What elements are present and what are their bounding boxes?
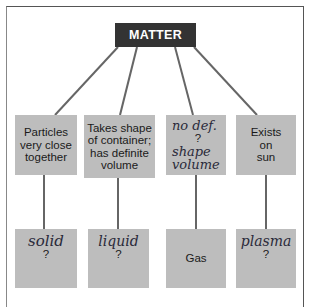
question-mark: ? [115, 248, 121, 261]
handwritten-answer: solid [28, 235, 64, 248]
handwritten-answer: plasma [241, 235, 292, 248]
handwritten-answer: volume [172, 158, 220, 171]
property-box-solid: Particles very close together [15, 115, 77, 175]
state-box-solid: solid ? [15, 229, 77, 288]
property-text: sun [257, 151, 276, 164]
property-text: together [25, 151, 67, 164]
root-label: MATTER [129, 28, 182, 42]
handwritten-answer: shape [172, 145, 211, 158]
property-text: volume [101, 159, 138, 172]
property-text: very close [20, 139, 72, 152]
property-text: has definite [90, 147, 149, 160]
property-box-liquid: Takes shape of container; has definite v… [84, 115, 155, 178]
question-mark: ? [195, 132, 201, 145]
question-mark: ? [43, 248, 49, 261]
property-text: Exists [251, 126, 282, 139]
handwritten-answer: no def. [172, 119, 217, 132]
handwritten-answer: liquid [98, 235, 138, 248]
state-box-gas: Gas [166, 229, 226, 288]
question-mark: ? [263, 248, 269, 261]
property-text: on [260, 139, 273, 152]
state-box-plasma: plasma ? [236, 229, 296, 288]
property-text: Takes shape [87, 122, 152, 135]
property-box-plasma: Exists on sun [236, 115, 296, 175]
state-label: Gas [185, 252, 206, 265]
property-box-gas: no def. ? shape volume [166, 115, 226, 175]
state-box-liquid: liquid ? [88, 229, 149, 288]
matter-root-node: MATTER [115, 23, 196, 47]
property-text: of container; [88, 134, 151, 147]
property-text: Particles [24, 126, 68, 139]
